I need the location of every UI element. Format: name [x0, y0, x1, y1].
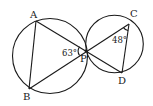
geometry-figure: A B P C D 63° 48° — [0, 0, 153, 106]
label-a: A — [29, 9, 38, 20]
segment-ab — [29, 21, 36, 89]
angle-arc-c — [124, 28, 129, 31]
angle-label-pcd: 48° — [112, 35, 127, 45]
label-d: D — [118, 75, 126, 86]
angle-label-apb: 63° — [62, 48, 77, 58]
label-b: B — [23, 91, 30, 102]
label-p: P — [80, 53, 87, 64]
point-p-dot — [85, 50, 88, 53]
segment-cd — [122, 24, 129, 73]
circles-diagram: A B P C D 63° 48° — [0, 0, 153, 106]
label-c: C — [130, 8, 138, 19]
